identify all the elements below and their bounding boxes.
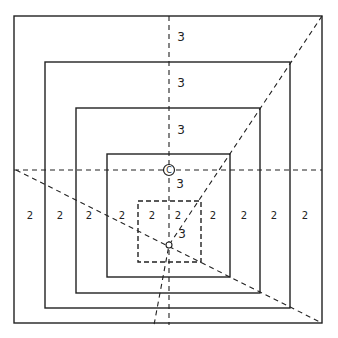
region-label-3: 3 — [177, 76, 185, 90]
labels-row-2: 2 2 2 2 2 2 2 2 2 2 — [27, 210, 308, 221]
region-label-3: 3 — [177, 123, 185, 137]
region-label-2: 2 — [241, 210, 247, 221]
square-3 — [76, 108, 260, 293]
region-label-2: 2 — [175, 210, 181, 221]
region-label-3: 3 — [176, 177, 184, 191]
region-label-2: 2 — [27, 210, 33, 221]
region-label-2: 2 — [271, 210, 277, 221]
region-label-2: 2 — [210, 210, 216, 221]
region-label-2: 2 — [57, 210, 63, 221]
region-label-2: 2 — [119, 210, 125, 221]
region-label-3: 3 — [177, 30, 185, 44]
region-label-2: 2 — [86, 210, 92, 221]
region-label-2: 2 — [149, 210, 155, 221]
region-label-2: 2 — [302, 210, 308, 221]
center-label: C — [166, 166, 172, 175]
region-label-3: 3 — [178, 227, 186, 241]
square-2 — [45, 62, 290, 308]
center-marker: C — [164, 165, 175, 176]
focal-point — [166, 242, 172, 248]
concentric-squares-diagram: C 2 2 2 2 2 2 2 2 2 2 3 3 3 3 3 — [0, 0, 338, 338]
